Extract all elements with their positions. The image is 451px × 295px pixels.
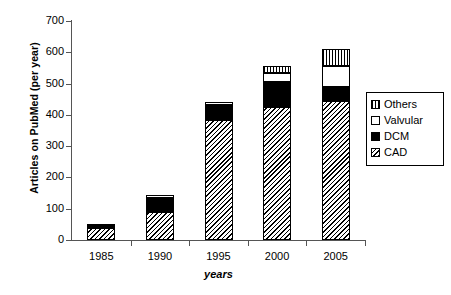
bar-2005	[322, 21, 350, 240]
bar-segment-2000-Others	[263, 66, 291, 72]
bar-segment-2005-DCM	[322, 87, 350, 101]
bar-1985	[87, 21, 115, 240]
y-axis-tick	[66, 240, 72, 241]
plot-area	[72, 21, 365, 240]
x-axis-label-1995: 1995	[189, 250, 249, 262]
bar-segment-2005-CAD	[322, 101, 350, 240]
x-axis-tick	[306, 241, 307, 246]
y-axis-tick-label: 600	[8, 46, 64, 57]
diagonal-hatch-swatch	[371, 148, 380, 157]
y-axis-tick-label: 200	[8, 171, 64, 182]
y-axis-tick-label: 300	[8, 140, 64, 151]
y-axis-tick-label: 100	[8, 203, 64, 214]
x-axis-line	[71, 240, 366, 241]
bar-1990	[146, 21, 174, 240]
bar-segment-1995-DCM	[205, 105, 233, 119]
bar-1995	[205, 21, 233, 240]
black-swatch	[371, 132, 380, 141]
bar-segment-2005-Valvular	[322, 66, 350, 86]
vertical-stripes-swatch	[371, 100, 380, 109]
x-axis-tick	[189, 241, 190, 246]
y-axis-tick-labels: 0100200300400500600700	[2, 0, 64, 295]
legend-label: Others	[384, 99, 417, 110]
bar-segment-1990-DCM	[146, 198, 174, 212]
legend-label: Valvular	[384, 115, 423, 126]
legend-label: CAD	[384, 147, 407, 158]
white-swatch	[371, 116, 380, 125]
x-axis-title: years	[72, 268, 365, 280]
x-axis-tick	[365, 241, 366, 246]
bar-segment-1985-DCM	[87, 224, 115, 228]
x-axis-label-2005: 2005	[306, 250, 366, 262]
bar-segment-1995-Valvular	[205, 102, 233, 105]
x-axis-label-2000: 2000	[247, 250, 307, 262]
legend-item-dcm[interactable]: DCM	[371, 129, 440, 144]
legend-item-others[interactable]: Others	[371, 97, 440, 112]
y-axis-tick-label: 400	[8, 109, 64, 120]
y-axis-tick-label: 500	[8, 78, 64, 89]
bar-segment-1990-Valvular	[146, 195, 174, 198]
x-axis-tick	[248, 241, 249, 246]
x-axis-label-1985: 1985	[71, 250, 131, 262]
bar-segment-2000-Valvular	[263, 73, 291, 82]
bar-segment-2000-CAD	[263, 107, 291, 240]
y-axis-tick-label: 700	[8, 15, 64, 26]
legend-label: DCM	[384, 131, 409, 142]
x-axis-label-1990: 1990	[130, 250, 190, 262]
bar-segment-2000-DCM	[263, 82, 291, 107]
chart-legend: OthersValvularDCMCAD	[366, 92, 444, 166]
legend-item-valvular[interactable]: Valvular	[371, 113, 440, 128]
bar-segment-2005-Others	[322, 49, 350, 66]
legend-item-cad[interactable]: CAD	[371, 145, 440, 160]
y-axis-tick-label: 0	[8, 234, 64, 245]
bar-segment-1985-CAD	[87, 228, 115, 241]
stacked-bar-chart: Articles on PubMed (per year) 0100200300…	[0, 0, 451, 295]
bar-2000	[263, 21, 291, 240]
x-axis-tick	[131, 241, 132, 246]
bar-segment-1990-CAD	[146, 212, 174, 240]
bar-segment-1995-CAD	[205, 120, 233, 240]
